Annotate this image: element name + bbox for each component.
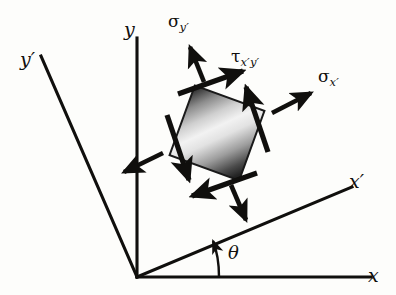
sigma-symbol: σ [168, 11, 180, 31]
normal-arrow-sigma-y-prime [190, 47, 204, 82]
figure-canvas: x y x′ y′ θ σy′ τx′y′ σx′ [0, 0, 396, 295]
sigma-x-prime-subscript: x′ [330, 75, 340, 89]
stress-diagram [0, 0, 396, 295]
axis-label-y-prime: y′ [20, 50, 35, 69]
tau-symbol: τ [231, 46, 240, 66]
stress-label-tau-x-prime-y-prime: τx′y′ [231, 48, 259, 68]
angle-label-theta: θ [228, 244, 239, 262]
stress-label-sigma-x-prime: σx′ [318, 68, 339, 88]
axis-y-prime-line [41, 56, 137, 277]
axis-x-prime-line [137, 187, 352, 277]
angle-indicator [213, 241, 219, 277]
axis-label-x: x [368, 266, 379, 285]
angle-arc [213, 241, 219, 277]
normal-arrow-sigma-x-prime [272, 93, 311, 113]
shear-arrow-bottom [192, 173, 257, 196]
axis-label-y: y [124, 20, 135, 39]
stress-label-sigma-y-prime: σy′ [168, 13, 189, 33]
axis-label-x-prime: x′ [349, 172, 364, 191]
normal-arrow-left [124, 153, 163, 172]
normal-arrow-bottom [231, 185, 246, 220]
sigma-symbol: σ [318, 66, 330, 86]
tau-subscript: x′y′ [240, 55, 259, 69]
sigma-y-prime-subscript: y′ [180, 20, 190, 34]
